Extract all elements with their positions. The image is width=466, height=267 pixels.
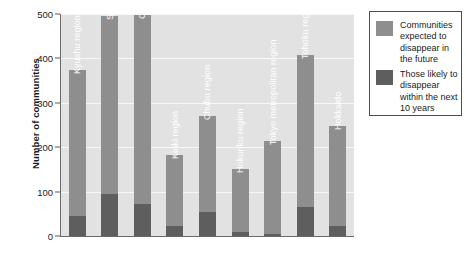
bar-segment-dark[interactable] <box>101 194 118 236</box>
bar-category-label: Shikoku region <box>105 0 115 20</box>
bar-segment-dark[interactable] <box>166 226 183 236</box>
bar-slot: Kyushu region <box>61 14 94 236</box>
legend-swatch <box>376 70 393 85</box>
bar[interactable]: Tokyo metropolitan region <box>264 141 281 236</box>
bar-slot: Tokyo metropolitan region <box>256 14 289 236</box>
bar[interactable]: Kyushu region <box>69 70 86 237</box>
bar-category-label: Chubu region <box>202 65 212 120</box>
legend-label: Communities expected to disappear in the… <box>400 20 461 66</box>
legend-item[interactable]: Those likely to disappear within the nex… <box>376 69 461 115</box>
bar-slot: Hokkaido <box>321 14 354 236</box>
plot-area: Kyushu regionShikoku regionChugoku regio… <box>60 14 354 237</box>
bar-slot: Kinki region <box>159 14 192 236</box>
bar[interactable]: Chugoku region <box>134 15 151 236</box>
bar-segment-dark[interactable] <box>264 234 281 236</box>
bar-segment-dark[interactable] <box>297 207 314 236</box>
bar-segment-dark[interactable] <box>329 226 346 236</box>
y-tick-label: 400 <box>37 53 53 64</box>
bar-segment-dark[interactable] <box>199 212 216 236</box>
legend-swatch <box>376 21 393 36</box>
stacked-bar-chart: Number of communities 0100200300400500 K… <box>0 0 466 267</box>
bar[interactable]: Chubu region <box>199 116 216 236</box>
bar-slot: Hokuriku region <box>224 14 257 236</box>
bar-category-label: Kyushu region <box>72 15 82 74</box>
bar-category-label: Hokuriku region <box>235 109 245 174</box>
bar-segment-dark[interactable] <box>69 216 86 236</box>
legend-label: Those likely to disappear within the nex… <box>400 69 461 115</box>
bar-slot: Shikoku region <box>94 14 127 236</box>
chart-legend: Communities expected to disappear in the… <box>369 11 462 116</box>
bar-category-label: Hokkaido <box>333 92 343 130</box>
bars-group: Kyushu regionShikoku regionChugoku regio… <box>61 14 354 236</box>
y-axis: 0100200300400500 <box>20 14 60 236</box>
bar[interactable]: Tohoku region <box>297 55 314 236</box>
y-tick-label: 100 <box>37 186 53 197</box>
y-tick-label: 0 <box>48 231 53 242</box>
bar-category-label: Tokyo metropolitan region <box>268 39 278 145</box>
bar-segment-dark[interactable] <box>232 232 249 236</box>
bar-slot: Tohoku region <box>289 14 322 236</box>
y-tick-label: 300 <box>37 97 53 108</box>
bar-category-label: Kinki region <box>170 111 180 159</box>
y-tick-label: 200 <box>37 142 53 153</box>
bar[interactable]: Hokuriku region <box>232 169 249 236</box>
legend-item[interactable]: Communities expected to disappear in the… <box>376 20 461 66</box>
bar-category-label: Chugoku region <box>137 0 147 19</box>
bar-slot: Chubu region <box>191 14 224 236</box>
bar[interactable]: Shikoku region <box>101 16 118 236</box>
bar[interactable]: Kinki region <box>166 155 183 236</box>
bar-category-label: Tohoku region <box>300 1 310 59</box>
bar[interactable]: Hokkaido <box>329 126 346 236</box>
y-tick-label: 500 <box>37 9 53 20</box>
bar-segment-dark[interactable] <box>134 204 151 236</box>
bar-slot: Chugoku region <box>126 14 159 236</box>
